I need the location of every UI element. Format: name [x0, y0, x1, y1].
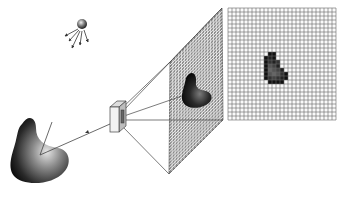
rays: [40, 122, 110, 155]
pixel: [268, 68, 272, 72]
pixel: [268, 56, 272, 60]
pixel: [268, 60, 272, 64]
pixel-grid: [228, 8, 336, 120]
pixel: [268, 80, 272, 84]
pixel: [268, 64, 272, 68]
light-rays: [65, 29, 88, 48]
pixel: [264, 68, 268, 72]
pixel: [276, 72, 280, 76]
pixel: [276, 76, 280, 80]
pixel: [276, 68, 280, 72]
pixel: [264, 72, 268, 76]
camera-icon: [110, 101, 126, 132]
pixel: [276, 64, 280, 68]
reflected-ray: [40, 124, 110, 155]
pixel: [284, 76, 288, 80]
pixel: [272, 52, 276, 56]
pixel: [280, 76, 284, 80]
pixel: [264, 64, 268, 68]
pixel: [264, 56, 268, 60]
pixel: [276, 60, 280, 64]
pixel: [268, 76, 272, 80]
pixel: [264, 76, 268, 80]
pixel: [272, 76, 276, 80]
pixel: [284, 72, 288, 76]
pixel: [272, 56, 276, 60]
imaging-pipeline-diagram: [0, 0, 343, 197]
pixel: [280, 72, 284, 76]
scene-object: [11, 118, 69, 183]
ray-arrowhead: [85, 130, 89, 133]
pixel: [272, 68, 276, 72]
pixel: [272, 72, 276, 76]
pixel: [264, 60, 268, 64]
pixel: [272, 80, 276, 84]
pixel: [268, 52, 272, 56]
light-source: [65, 19, 88, 48]
pixel: [280, 80, 284, 84]
pixel: [280, 68, 284, 72]
pixel: [272, 64, 276, 68]
light-bulb-icon: [77, 19, 87, 29]
pixel: [272, 60, 276, 64]
pixel: [268, 72, 272, 76]
pixel: [276, 80, 280, 84]
